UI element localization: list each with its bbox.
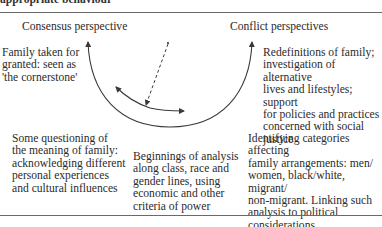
dashed-pointer-origin-dot xyxy=(167,42,169,44)
arc-diagram xyxy=(0,0,382,227)
outer-arc-left-arrow xyxy=(88,42,170,127)
dashed-pointer-arrow xyxy=(146,44,168,105)
inner-arc-right-arrow xyxy=(150,108,184,111)
bottom-rule xyxy=(0,215,382,216)
inner-arc-left-arrow xyxy=(116,87,150,108)
outer-arc-right-arrow xyxy=(170,42,252,127)
